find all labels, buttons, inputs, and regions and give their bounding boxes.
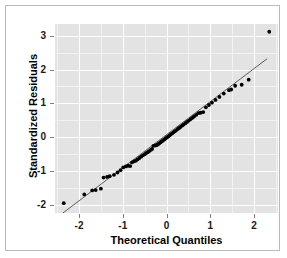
x-axis-tick-label: 1	[198, 220, 222, 231]
y-axis-tick	[50, 70, 54, 71]
y-axis-tick-label: 3	[26, 30, 46, 41]
x-axis-tick	[254, 214, 255, 218]
y-axis-tick-label: -1	[26, 165, 46, 176]
data-point	[247, 78, 251, 82]
data-point	[233, 84, 237, 88]
plot-panel	[55, 24, 278, 213]
y-axis-tick-label: 0	[26, 131, 46, 142]
data-point	[204, 105, 208, 109]
data-point	[214, 98, 218, 102]
y-axis-tick	[50, 137, 54, 138]
figure-frame: Theoretical Quantiles Standardized Resid…	[5, 5, 280, 251]
y-axis-tick	[50, 205, 54, 206]
data-point	[222, 92, 226, 96]
x-axis-tick-label: -1	[111, 220, 135, 231]
data-point	[128, 164, 132, 168]
data-point	[102, 176, 106, 180]
y-axis-tick	[50, 36, 54, 37]
data-point	[116, 171, 120, 175]
x-axis-tick	[79, 214, 80, 218]
data-point	[210, 101, 214, 105]
y-axis-tick-label: -2	[26, 199, 46, 210]
data-point	[90, 188, 94, 192]
x-axis-tick-label: 2	[242, 220, 266, 231]
x-axis-tick-label: -2	[67, 220, 91, 231]
y-axis-label: Standardized Residuals	[27, 22, 39, 211]
plot-marks	[55, 24, 278, 213]
x-axis-label: Theoretical Quantiles	[55, 234, 278, 246]
data-point	[108, 174, 112, 178]
x-axis-tick	[167, 214, 168, 218]
data-point	[229, 88, 233, 92]
y-axis-tick	[50, 171, 54, 172]
data-point	[82, 193, 86, 197]
data-point	[201, 110, 205, 114]
x-axis-tick	[210, 214, 211, 218]
x-axis-tick-label: 0	[155, 220, 179, 231]
data-point	[99, 187, 103, 191]
y-axis-tick	[50, 103, 54, 104]
qq-plot-figure: Theoretical Quantiles Standardized Resid…	[0, 0, 287, 258]
data-point	[267, 30, 271, 34]
data-point	[94, 188, 98, 192]
data-point	[112, 173, 116, 177]
data-point	[218, 95, 222, 99]
y-axis-tick-label: 1	[26, 97, 46, 108]
data-point	[240, 83, 244, 87]
y-axis-tick-label: 2	[26, 64, 46, 75]
data-point	[62, 201, 66, 205]
data-point	[207, 103, 211, 107]
x-axis-tick	[123, 214, 124, 218]
